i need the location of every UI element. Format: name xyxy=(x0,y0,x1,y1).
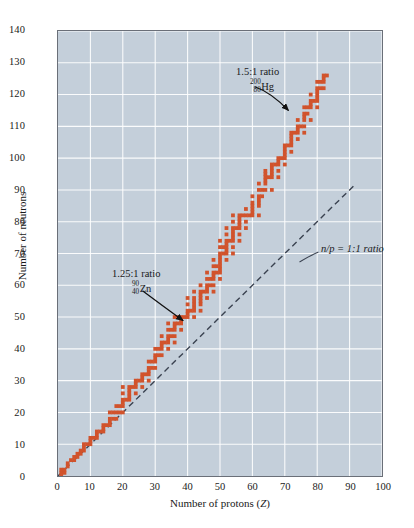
annotation-zn-ratio-label: 1.25:1 ratio xyxy=(112,268,160,280)
y-axis-title: Number of neutrons xyxy=(16,151,28,321)
nuclide-hg-numbers: 20080 xyxy=(250,79,261,94)
annotation-zn-nuclide: 9040Zn xyxy=(132,281,151,296)
annotation-np-italic: n/p xyxy=(321,243,334,254)
annotation-np-ratio: n/p = 1:1 ratio xyxy=(321,243,384,255)
x-tick-label: 70 xyxy=(268,481,302,492)
annotation-np-rest: = 1:1 ratio xyxy=(334,243,383,254)
y-tick-label: 40 xyxy=(0,344,25,354)
x-axis-title: Number of protons (Z) xyxy=(57,497,383,509)
annotation-hg-nuclide: 20080Hg xyxy=(250,79,274,94)
nuclide-zn: 9040Zn xyxy=(132,281,151,296)
y-tick-label: 120 xyxy=(0,89,25,99)
y-tick-label: 130 xyxy=(0,57,25,67)
nuclide-hg-symbol: Hg xyxy=(261,81,274,93)
nuclide-zn-numbers: 9040 xyxy=(132,281,139,296)
nuclide-zn-symbol: Zn xyxy=(140,283,152,295)
x-tick-label: 40 xyxy=(170,481,204,492)
x-tick-label: 60 xyxy=(236,481,270,492)
x-axis-title-suffix: ) xyxy=(266,497,270,509)
x-axis-title-prefix: Number of protons ( xyxy=(170,497,260,509)
x-tick-label: 10 xyxy=(73,481,107,492)
band-of-stability-figure: 0102030405060708090100110120130140 01020… xyxy=(0,0,414,528)
nuclide-hg: 20080Hg xyxy=(250,79,274,94)
x-tick-label: 50 xyxy=(203,481,237,492)
x-tick-label: 0 xyxy=(40,481,74,492)
x-tick-label: 90 xyxy=(333,481,367,492)
x-tick-label: 20 xyxy=(105,481,139,492)
x-tick-label: 80 xyxy=(301,481,335,492)
x-tick-label: 100 xyxy=(366,481,400,492)
annotation-hg-ratio-label: 1.5:1 ratio xyxy=(236,66,279,78)
nuclide-hg-atomic-number: 80 xyxy=(250,87,261,95)
y-tick-label: 30 xyxy=(0,376,25,386)
y-tick-label: 10 xyxy=(0,440,25,450)
x-tick-label: 30 xyxy=(138,481,172,492)
y-tick-label: 110 xyxy=(0,121,25,131)
data-points-stable-nuclides xyxy=(59,74,328,476)
y-tick-label: 20 xyxy=(0,408,25,418)
y-tick-label: 140 xyxy=(0,25,25,35)
y-tick-label: 0 xyxy=(0,472,25,482)
nuclide-zn-atomic-number: 40 xyxy=(132,289,139,297)
